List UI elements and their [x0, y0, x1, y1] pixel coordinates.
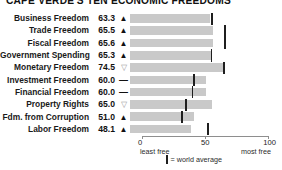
table-row: Fiscal Freedom65.6▲ — [0, 37, 282, 49]
score-bar — [130, 88, 206, 97]
bar-track — [130, 86, 282, 98]
score-bar — [130, 125, 191, 134]
bar-track — [130, 25, 282, 37]
freedom-label: Fdm. from Corruption — [0, 113, 89, 122]
table-row: Property Rights65.0▽ — [0, 99, 282, 111]
axis-tick-label: 0 — [138, 139, 142, 147]
world-average-marker-icon — [166, 155, 168, 164]
world-average-tick — [207, 123, 209, 135]
freedom-label: Fiscal Freedom — [0, 39, 89, 48]
table-row: Business Freedom63.3▲ — [0, 13, 282, 25]
trend-down-icon: ▽ — [117, 63, 130, 72]
freedom-score: 51.0 — [89, 113, 117, 122]
bar-track — [130, 123, 282, 135]
freedom-label: Trade Freedom — [0, 26, 89, 35]
freedom-score: 60.0 — [89, 88, 117, 97]
score-bar — [130, 14, 210, 23]
table-row: Financial Freedom60.0— — [0, 86, 282, 98]
world-average-tick — [211, 49, 213, 61]
trend-up-icon: ▲ — [117, 39, 130, 48]
table-row: Labor Freedom48.1▲ — [0, 123, 282, 135]
table-row: Investment Freedom60.0— — [0, 74, 282, 86]
world-average-tick — [224, 37, 226, 49]
freedom-label: Government Spending — [0, 51, 89, 60]
bar-track — [130, 62, 282, 74]
freedom-score: 65.3 — [89, 51, 117, 60]
trend-flat-icon: — — [117, 88, 130, 97]
legend-label: = world average — [171, 155, 222, 164]
world-average-tick — [193, 74, 195, 86]
world-average-tick — [223, 62, 225, 74]
trend-up-icon: ▲ — [117, 26, 130, 35]
chart-title: CAPE VERDE'S TEN ECONOMIC FREEDOMS — [6, 0, 282, 6]
freedom-label: Business Freedom — [0, 14, 89, 23]
economic-freedoms-chart: CAPE VERDE'S TEN ECONOMIC FREEDOMS Busin… — [0, 0, 282, 170]
score-bar — [130, 112, 194, 121]
score-bar — [130, 100, 212, 109]
freedom-score: 65.6 — [89, 39, 117, 48]
world-average-tick — [185, 99, 187, 111]
trend-up-icon: ▲ — [117, 51, 130, 60]
freedom-score: 65.5 — [89, 26, 117, 35]
freedom-label: Monetary Freedom — [0, 63, 89, 72]
axis-caption-most-free: most free — [241, 148, 271, 156]
freedom-score: 65.0 — [89, 100, 117, 109]
trend-down-icon: ▽ — [117, 100, 130, 109]
freedom-label: Investment Freedom — [0, 76, 89, 85]
trend-flat-icon: — — [117, 76, 130, 85]
world-average-tick — [224, 25, 226, 37]
freedom-score: 74.5 — [89, 63, 117, 72]
bar-track — [130, 49, 282, 61]
freedom-score: 48.1 — [89, 125, 117, 134]
axis-caption-least-free: least free — [140, 148, 170, 156]
freedom-label: Financial Freedom — [0, 88, 89, 97]
freedom-rows: Business Freedom63.3▲Trade Freedom65.5▲F… — [0, 13, 282, 136]
axis-tick-label: 100 — [263, 139, 276, 147]
score-bar — [130, 63, 224, 72]
table-row: Trade Freedom65.5▲ — [0, 25, 282, 37]
freedom-label: Property Rights — [0, 100, 89, 109]
bar-track — [130, 37, 282, 49]
world-average-tick — [181, 111, 183, 123]
world-average-tick — [192, 86, 194, 98]
freedom-score: 63.3 — [89, 14, 117, 23]
score-bar — [130, 51, 212, 60]
chart-legend: = world average — [166, 155, 222, 164]
bar-track — [130, 13, 282, 25]
score-bar — [130, 39, 213, 48]
world-average-tick — [211, 13, 213, 25]
table-row: Fdm. from Corruption51.0▲ — [0, 111, 282, 123]
axis-tick-label: 50 — [201, 139, 209, 147]
score-bar — [130, 26, 213, 35]
bar-track — [130, 111, 282, 123]
bar-track — [130, 99, 282, 111]
table-row: Government Spending65.3▲ — [0, 49, 282, 61]
bar-track — [130, 74, 282, 86]
table-row: Monetary Freedom74.5▽ — [0, 62, 282, 74]
freedom-score: 60.0 — [89, 76, 117, 85]
trend-up-icon: ▲ — [117, 14, 130, 23]
trend-up-icon: ▲ — [117, 113, 130, 122]
trend-up-icon: ▲ — [117, 125, 130, 134]
freedom-label: Labor Freedom — [0, 125, 89, 134]
